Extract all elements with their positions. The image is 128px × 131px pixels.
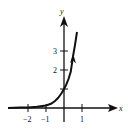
chart-canvas: x y −2 −1 1 2 3	[0, 0, 128, 131]
x-tick-label--2: −2	[23, 115, 32, 124]
x-axis-label: x	[118, 104, 123, 113]
y-tick-label-3: 3	[53, 47, 57, 56]
x-tick-label-1: 1	[80, 115, 84, 124]
y-tick-label-2: 2	[53, 66, 57, 75]
x-tick-label--1: −1	[41, 115, 50, 124]
y-axis-label: y	[59, 7, 64, 16]
